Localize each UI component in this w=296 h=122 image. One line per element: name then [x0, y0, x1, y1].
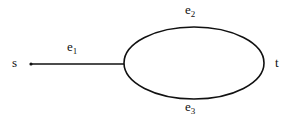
edge-e1-label: e1: [67, 39, 77, 56]
edges-e2-e3-loop: [124, 27, 264, 99]
edge-e2-label: e2: [185, 2, 195, 19]
node-s-label: s: [12, 55, 17, 70]
node-t-label: t: [275, 55, 279, 70]
graph-diagram: s t e1 e2 e3: [0, 0, 296, 122]
edge-e3-label: e3: [185, 99, 196, 116]
node-s-dot: [29, 62, 32, 65]
